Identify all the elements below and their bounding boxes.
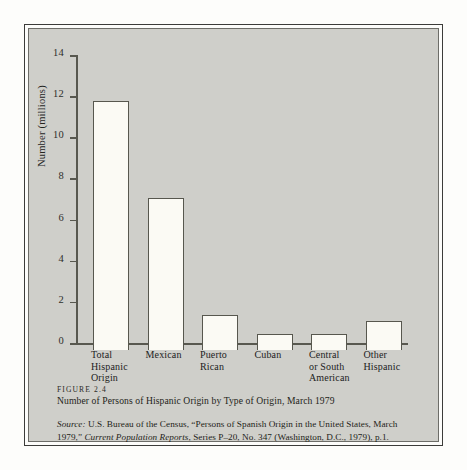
source-text-part-2: , Series P–20, No. 347 (Washington, D.C.… [188, 432, 388, 442]
bar-chart-plot-area: 02468101214 Number (millions) TotalHispa… [76, 55, 416, 350]
bar [257, 334, 293, 350]
x-axis-label: TotalHispanicOrigin [91, 349, 150, 384]
figure-tint-plate: 02468101214 Number (millions) TotalHispa… [28, 28, 439, 442]
x-axis-label-line: American [309, 372, 368, 384]
y-tick-14 [70, 55, 76, 57]
x-axis-label-line: Total [91, 349, 150, 361]
y-tick-0 [70, 343, 76, 345]
x-axis-label-line: Puerto [200, 349, 259, 361]
y-tick-label-0: 0 [58, 335, 64, 346]
scanned-page: 02468101214 Number (millions) TotalHispa… [0, 0, 467, 470]
x-axis-label-line: Cuban [255, 349, 314, 361]
x-axis-label: OtherHispanic [364, 349, 423, 372]
y-tick-10 [70, 137, 76, 139]
y-tick-6 [70, 220, 76, 222]
bar [366, 321, 402, 350]
figure-number: FIGURE 2.4 [57, 385, 417, 394]
bar [202, 315, 238, 350]
y-tick-8 [70, 178, 76, 180]
figure-caption: FIGURE 2.4 Number of Persons of Hispanic… [57, 385, 417, 443]
y-axis-title: Number (millions) [36, 85, 47, 167]
x-axis-label: Cuban [255, 349, 314, 361]
x-axis-label: PuertoRican [200, 349, 259, 372]
x-axis-label-line: Other [364, 349, 423, 361]
x-axis-label-line: Rican [200, 361, 259, 373]
x-axis-label: Centralor SouthAmerican [309, 349, 368, 384]
x-axis-label-line: Origin [91, 372, 150, 384]
figure-frame: 02468101214 Number (millions) TotalHispa… [24, 24, 443, 446]
x-axis-label: Mexican [146, 349, 205, 361]
y-tick-label-14: 14 [53, 47, 64, 58]
x-axis-label-line: Hispanic [91, 361, 150, 373]
y-tick-4 [70, 261, 76, 263]
x-axis-label-line: Mexican [146, 349, 205, 361]
y-axis-line [76, 55, 78, 343]
x-axis-label-line: Central [309, 349, 368, 361]
y-tick-label-12: 12 [53, 88, 64, 99]
y-tick-2 [70, 302, 76, 304]
x-axis-label-line: Hispanic [364, 361, 423, 373]
y-tick-label-4: 4 [58, 253, 64, 264]
bar [93, 101, 129, 350]
y-tick-label-10: 10 [53, 129, 64, 140]
y-tick-label-8: 8 [58, 170, 64, 181]
x-axis-label-line: or South [309, 361, 368, 373]
y-tick-label-6: 6 [58, 212, 64, 223]
bar [311, 334, 347, 350]
figure-title: Number of Persons of Hispanic Origin by … [57, 395, 417, 407]
y-tick-12 [70, 96, 76, 98]
bar [148, 198, 184, 350]
figure-source-note: Source: U.S. Bureau of the Census, “Pers… [57, 418, 417, 443]
source-label: Source: [57, 419, 86, 429]
source-publication-title: Current Population Reports [84, 432, 188, 442]
y-tick-label-2: 2 [58, 294, 64, 305]
